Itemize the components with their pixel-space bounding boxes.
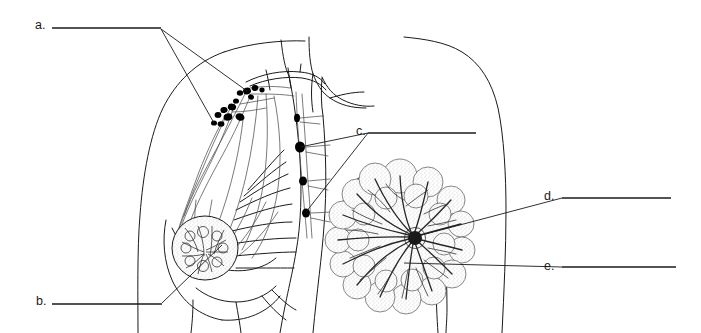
lateral-breast-gland-tissue: [172, 216, 238, 280]
internal-mammary-lymph-node-4: [302, 208, 310, 217]
worksheet-page: a.b.c.d.e.: [0, 0, 701, 333]
anatomy-illustration: a.b.c.d.e.: [0, 0, 701, 333]
label-letter-b: b.: [36, 294, 46, 308]
axillary-lymph-node-3: [237, 90, 243, 96]
axillary-lymph-node-5: [259, 88, 264, 93]
label-letter-e: e.: [544, 259, 554, 273]
label-letter-d: d.: [544, 189, 554, 203]
axillary-lymph-node-11: [218, 121, 225, 127]
axillary-lymph-node-13: [233, 98, 239, 103]
axillary-lymph-node-8: [215, 112, 222, 118]
label-letter-c: c.: [356, 124, 366, 138]
nipple: [408, 231, 422, 245]
internal-mammary-lymph-node-1: [294, 114, 300, 122]
internal-mammary-lymph-node-3: [299, 176, 307, 185]
label-letter-a: a.: [35, 18, 45, 32]
